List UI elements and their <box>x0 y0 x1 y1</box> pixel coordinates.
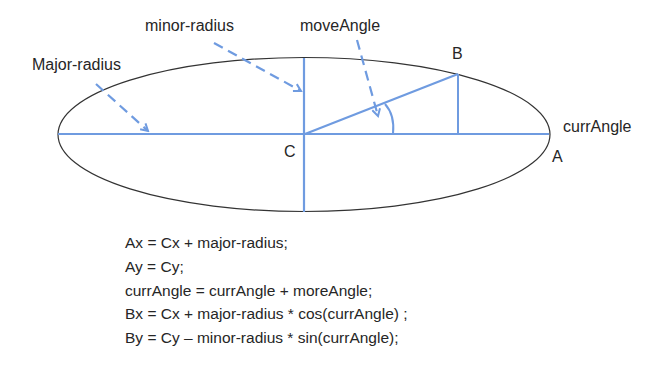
formula-ay: Ay = Cy; <box>125 255 408 279</box>
minor-radius-arrow <box>214 43 301 91</box>
curr-angle-label: currAngle <box>563 118 631 136</box>
formula-ax: Ax = Cx + major-radius; <box>125 231 408 255</box>
point-b-label: B <box>452 45 463 63</box>
minor-radius-label: minor-radius <box>145 17 234 35</box>
major-radius-label: Major-radius <box>32 56 121 74</box>
point-a-label: A <box>552 148 563 166</box>
point-c-label: C <box>284 143 296 161</box>
formula-block: Ax = Cx + major-radius; Ay = Cy; currAng… <box>125 231 408 350</box>
formula-by: By = Cy – minor-radius * sin(currAngle); <box>125 326 408 350</box>
radius-to-b-line <box>305 74 458 134</box>
move-angle-arc <box>385 104 393 134</box>
move-angle-label: moveAngle <box>300 17 380 35</box>
formula-curr-angle: currAngle = currAngle + moreAngle; <box>125 279 408 303</box>
formula-bx: Bx = Cx + major-radius * cos(currAngle) … <box>125 302 408 326</box>
major-radius-arrow <box>96 84 148 131</box>
move-angle-arrow <box>357 40 378 116</box>
